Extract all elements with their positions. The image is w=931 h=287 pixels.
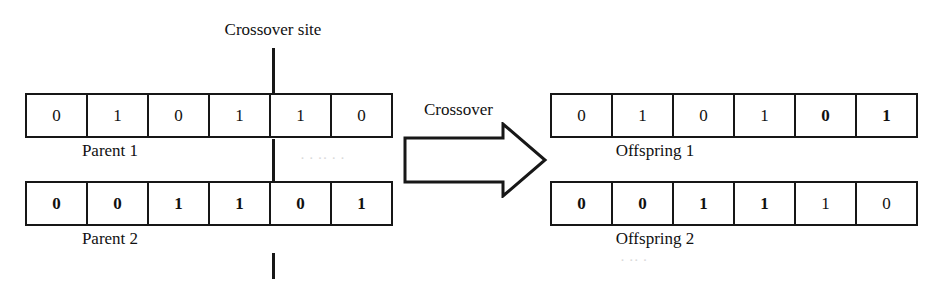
chromosome-parent-2: 0 0 1 1 0 1	[25, 181, 393, 226]
gene-cell: 1	[271, 95, 332, 136]
chromosome-offspring-2: 0 0 1 1 1 0	[550, 181, 918, 226]
gene-cell: 0	[857, 183, 916, 224]
gene-cell: 1	[674, 183, 735, 224]
chromosome-parent-1: 0 1 0 1 1 0	[25, 93, 393, 138]
right-block-arrow-icon	[403, 122, 548, 198]
crossover-site-rule-middle	[272, 139, 275, 182]
gene-cell: 0	[88, 183, 149, 224]
scan-artifact: · ·· ·	[620, 252, 647, 269]
crossover-operator-label: Crossover	[424, 100, 493, 119]
gene-cell: 1	[210, 95, 271, 136]
gene-cell: 0	[27, 183, 88, 224]
gene-cell: 1	[857, 95, 916, 136]
chromosome-offspring-1: 0 1 0 1 0 1	[550, 93, 918, 138]
gene-cell: 1	[210, 183, 271, 224]
chromosome-label-parent-1: Parent 1	[40, 141, 180, 160]
gene-cell: 0	[271, 183, 332, 224]
gene-cell: 1	[88, 95, 149, 136]
crossover-site-rule-bottom	[272, 253, 275, 279]
crossover-diagram: · · ·· · · · ·· · Crossover site 0 1 0 1…	[0, 0, 931, 287]
gene-cell: 1	[735, 183, 796, 224]
scan-artifact: · · ·· · ·	[300, 150, 345, 167]
gene-cell: 0	[332, 95, 391, 136]
gene-cell: 0	[796, 95, 857, 136]
gene-cell: 0	[552, 95, 613, 136]
chromosome-label-offspring-1: Offspring 1	[575, 141, 735, 160]
gene-cell: 1	[613, 95, 674, 136]
crossover-site-rule-top	[272, 48, 275, 94]
chromosome-label-parent-2: Parent 2	[40, 229, 180, 248]
gene-cell: 0	[27, 95, 88, 136]
chromosome-label-offspring-2: Offspring 2	[575, 229, 735, 248]
gene-cell: 1	[149, 183, 210, 224]
gene-cell: 1	[332, 183, 391, 224]
gene-cell: 0	[674, 95, 735, 136]
crossover-site-label: Crossover site	[173, 20, 373, 39]
gene-cell: 1	[735, 95, 796, 136]
gene-cell: 1	[796, 183, 857, 224]
gene-cell: 0	[552, 183, 613, 224]
gene-cell: 0	[149, 95, 210, 136]
gene-cell: 0	[613, 183, 674, 224]
